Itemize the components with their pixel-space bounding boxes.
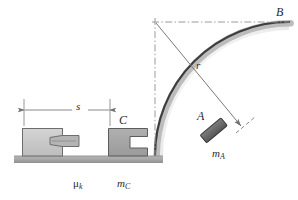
radius-tangent-tick bbox=[236, 117, 255, 133]
label-point-a: A bbox=[197, 110, 204, 122]
label-mass-a-base: m bbox=[212, 147, 220, 159]
physics-diagram-figure: B r A C s mA μk mC bbox=[0, 0, 298, 200]
ramp-arc-shadow bbox=[157, 23, 291, 157]
label-distance-s: s bbox=[76, 101, 80, 112]
label-friction-coefficient: μk bbox=[73, 178, 82, 191]
label-point-b: B bbox=[276, 6, 283, 18]
label-mass-a-subscript: A bbox=[220, 152, 225, 161]
label-mass-c: mC bbox=[117, 178, 130, 191]
diagram-canvas bbox=[0, 0, 298, 200]
label-friction-subscript: k bbox=[79, 182, 83, 191]
ground-surface bbox=[14, 156, 163, 163]
label-radius: r bbox=[196, 60, 200, 71]
label-mass-c-subscript: C bbox=[125, 182, 130, 191]
label-block-c: C bbox=[119, 114, 127, 126]
block-c bbox=[109, 129, 148, 157]
label-mass-a: mA bbox=[212, 148, 225, 161]
label-mass-c-base: m bbox=[117, 177, 125, 189]
